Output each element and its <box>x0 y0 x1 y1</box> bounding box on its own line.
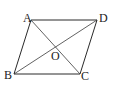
label-d: D <box>99 11 108 25</box>
label-b: B <box>4 68 12 82</box>
side-cd <box>80 20 97 74</box>
parallelogram-diagram: A D B C O <box>0 0 114 98</box>
side-ab <box>14 20 31 74</box>
label-o: O <box>51 49 60 63</box>
diagonal-bd <box>14 20 97 74</box>
diagram-canvas: A D B C O <box>0 0 114 98</box>
label-c: C <box>81 69 89 83</box>
label-a: A <box>23 11 32 25</box>
